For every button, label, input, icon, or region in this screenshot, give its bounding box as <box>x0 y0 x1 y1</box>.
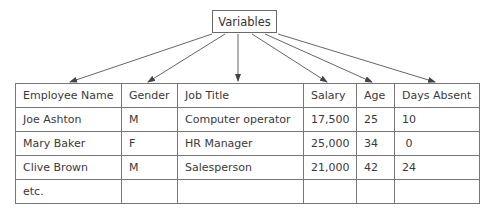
header-job-title: Job Title <box>178 84 304 108</box>
header-age: Age <box>357 84 395 108</box>
cell-name: etc. <box>16 180 122 204</box>
arrow-salary <box>252 34 327 82</box>
cell-gender: M <box>122 108 178 132</box>
table-row: etc. <box>16 180 480 204</box>
cell-job-title: Salesperson <box>178 156 304 180</box>
cell-name: Joe Ashton <box>16 108 122 132</box>
cell-days-absent: 0 <box>395 132 480 156</box>
table-row: Joe Ashton M Computer operator 17,500 25… <box>16 108 480 132</box>
cell-gender: F <box>122 132 178 156</box>
table-header-row: Employee Name Gender Job Title Salary Ag… <box>16 84 480 108</box>
cell-salary: 21,000 <box>304 156 357 180</box>
employee-table: Employee Name Gender Job Title Salary Ag… <box>15 83 480 204</box>
cell-salary: 25,000 <box>304 132 357 156</box>
cell-gender: M <box>122 156 178 180</box>
header-gender: Gender <box>122 84 178 108</box>
cell-days-absent: 10 <box>395 108 480 132</box>
cell-name: Mary Baker <box>16 132 122 156</box>
cell-days-absent: 24 <box>395 156 480 180</box>
arrow-employee-name <box>70 34 212 82</box>
cell-gender <box>122 180 178 204</box>
cell-job-title: Computer operator <box>178 108 304 132</box>
header-days-absent: Days Absent <box>395 84 480 108</box>
cell-name: Clive Brown <box>16 156 122 180</box>
header-employee-name: Employee Name <box>16 84 122 108</box>
cell-job-title: HR Manager <box>178 132 304 156</box>
cell-salary: 17,500 <box>304 108 357 132</box>
cell-age <box>357 180 395 204</box>
variables-box: Variables <box>212 10 277 33</box>
table-row: Mary Baker F HR Manager 25,000 34 0 <box>16 132 480 156</box>
cell-age: 42 <box>357 156 395 180</box>
cell-age: 34 <box>357 132 395 156</box>
cell-age: 25 <box>357 108 395 132</box>
header-salary: Salary <box>304 84 357 108</box>
cell-job-title <box>178 180 304 204</box>
cell-days-absent <box>395 180 480 204</box>
arrow-gender <box>148 34 225 82</box>
cell-salary <box>304 180 357 204</box>
table-row: Clive Brown M Salesperson 21,000 42 24 <box>16 156 480 180</box>
